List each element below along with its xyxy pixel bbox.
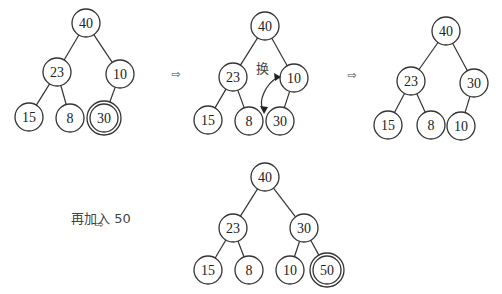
tree-node-new: 50 bbox=[310, 253, 344, 287]
tree-node-new: 30 bbox=[87, 101, 121, 135]
tree-edge bbox=[394, 93, 404, 112]
tree-edge bbox=[417, 94, 425, 113]
insert-note-label: 再加入 50 bbox=[71, 211, 131, 226]
tree-edge bbox=[110, 87, 115, 102]
node-label: 40 bbox=[258, 19, 272, 34]
node-label: 8 bbox=[246, 114, 253, 129]
tree-node: 23 bbox=[43, 58, 71, 86]
tree-edge bbox=[215, 240, 226, 258]
node-label: 30 bbox=[97, 111, 111, 126]
tree-node: 23 bbox=[397, 67, 425, 95]
right-arrow-icon: ⇨ bbox=[347, 69, 356, 82]
tree-node: 30 bbox=[460, 69, 488, 97]
tree-edge bbox=[94, 35, 112, 63]
tree-node: 23 bbox=[219, 63, 247, 91]
tree-2: 40231015830 bbox=[194, 12, 308, 135]
tree-node: 15 bbox=[194, 106, 222, 134]
node-label: 40 bbox=[79, 16, 93, 31]
node-label: 40 bbox=[439, 24, 453, 39]
node-label: 23 bbox=[50, 65, 64, 80]
node-label: 8 bbox=[67, 111, 74, 126]
tree-node: 8 bbox=[235, 107, 263, 135]
tree-node: 40 bbox=[72, 9, 100, 37]
tree-edge bbox=[61, 85, 66, 104]
tree-edge bbox=[215, 89, 226, 108]
tree-edge bbox=[419, 42, 438, 69]
tree-4: 4023301581050 bbox=[194, 163, 344, 287]
swap-label: 换 bbox=[256, 61, 269, 76]
tree-edge bbox=[238, 90, 244, 108]
tree-node: 15 bbox=[374, 111, 402, 139]
swap-annotation: 换 bbox=[256, 61, 281, 114]
node-label: 23 bbox=[226, 221, 240, 236]
trees-layer: 4023101583040231015830402330158104023301… bbox=[15, 9, 488, 287]
node-label: 10 bbox=[283, 263, 297, 278]
tree-edge bbox=[311, 240, 319, 255]
right-arrow-icon: ⇨ bbox=[171, 68, 180, 81]
tree-edge bbox=[240, 189, 257, 216]
node-label: 15 bbox=[22, 110, 36, 125]
heap-insertion-diagram: 4023101583040231015830402330158104023301… bbox=[0, 0, 502, 294]
arrows-layer: ⇨⇨⇨ bbox=[94, 68, 356, 231]
tree-node: 40 bbox=[432, 17, 460, 45]
tree-node: 30 bbox=[290, 214, 318, 242]
tree-node: 23 bbox=[219, 214, 247, 242]
node-label: 8 bbox=[246, 263, 253, 278]
node-label: 50 bbox=[320, 263, 334, 278]
node-label: 23 bbox=[404, 74, 418, 89]
node-label: 8 bbox=[428, 118, 435, 133]
swap-arrowhead-bottom-icon bbox=[260, 106, 268, 114]
tree-node: 10 bbox=[280, 64, 308, 92]
node-label: 15 bbox=[381, 118, 395, 133]
node-label: 30 bbox=[273, 114, 287, 129]
node-label: 10 bbox=[454, 119, 468, 134]
node-label: 10 bbox=[287, 71, 301, 86]
tree-node: 8 bbox=[235, 256, 263, 284]
tree-edge bbox=[274, 188, 296, 217]
tree-edge bbox=[272, 38, 287, 66]
tree-edge bbox=[64, 35, 79, 60]
tree-node: 40 bbox=[251, 12, 279, 40]
node-label: 15 bbox=[201, 263, 215, 278]
tree-edge bbox=[36, 84, 49, 105]
tree-node: 10 bbox=[106, 60, 134, 88]
tree-node: 10 bbox=[276, 256, 304, 284]
tree-edge bbox=[284, 91, 289, 107]
tree-node: 10 bbox=[447, 112, 475, 140]
node-label: 30 bbox=[297, 221, 311, 236]
swap-curved-arrow-icon bbox=[261, 77, 278, 110]
tree-node: 8 bbox=[56, 104, 84, 132]
node-label: 10 bbox=[113, 67, 127, 82]
tree-node: 40 bbox=[251, 163, 279, 191]
tree-edge bbox=[238, 241, 244, 257]
tree-edge bbox=[294, 241, 299, 256]
tree-node: 30 bbox=[266, 107, 294, 135]
tree-node: 8 bbox=[417, 111, 445, 139]
node-label: 40 bbox=[258, 170, 272, 185]
tree-edge bbox=[453, 43, 468, 70]
insert-note: 再加入 50 bbox=[71, 211, 131, 226]
tree-1: 40231015830 bbox=[15, 9, 134, 135]
tree-node: 15 bbox=[15, 103, 43, 131]
node-label: 15 bbox=[201, 113, 215, 128]
tree-edge bbox=[240, 38, 257, 65]
tree-3: 40233015810 bbox=[374, 17, 488, 140]
node-label: 30 bbox=[467, 76, 481, 91]
tree-node: 15 bbox=[194, 256, 222, 284]
node-label: 23 bbox=[226, 70, 240, 85]
tree-edge bbox=[465, 96, 470, 112]
